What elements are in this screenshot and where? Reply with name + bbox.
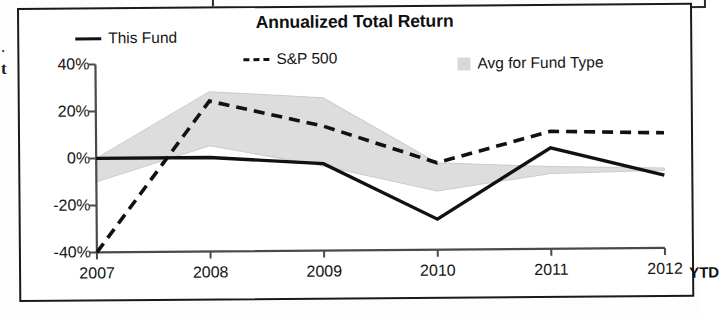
chart-plot-area: Annualized Total Return This Fund S&P 50… [19, 5, 692, 300]
series-band-avg-fund-type [96, 88, 665, 194]
x-axis-ytd-label: YTD [689, 263, 719, 280]
edge-text-fragment-bottom: t [1, 60, 7, 77]
chart-canvas [19, 5, 692, 300]
edge-text-fragment-top: . [1, 38, 5, 55]
chart-frame: Annualized Total Return This Fund S&P 50… [17, 3, 694, 302]
